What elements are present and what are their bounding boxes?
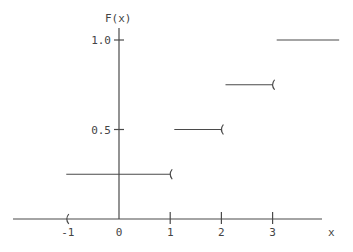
x-tick-label: 2 [218,226,225,239]
open-endpoint-marker [170,169,172,179]
axis-labels: -101230.51.0F(x)x [61,12,335,239]
x-axis-label: x [328,226,335,239]
y-tick-label: 1.0 [91,34,111,47]
x-tick-label: 1 [167,226,174,239]
y-tick-label: 0.5 [91,124,111,137]
x-tick-label: 0 [116,226,123,239]
axes [13,28,322,224]
x-tick-label: 3 [269,226,276,239]
step-function-chart: -101230.51.0F(x)x [0,0,353,252]
x-tick-label: -1 [61,226,74,239]
open-endpoint-marker [221,125,223,135]
open-endpoint-marker [273,80,275,90]
y-axis-label: F(x) [105,12,132,25]
